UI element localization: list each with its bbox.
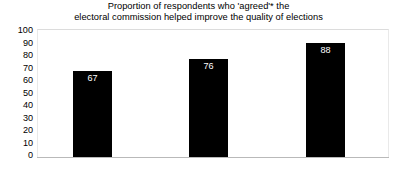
y-tick-label: 100	[0, 26, 33, 35]
bar-value-label: 67	[73, 74, 112, 84]
bar-chart-figure: Proportion of respondents who 'agreed'* …	[0, 0, 397, 175]
category-label-kenya: Kenya	[163, 145, 253, 155]
y-tick-label: 10	[0, 139, 33, 148]
y-tick-label: 40	[0, 101, 33, 110]
category-label-uganda: Uganda	[47, 145, 137, 155]
category-label-ghana: Ghana	[280, 145, 370, 155]
bar-value-label: 88	[306, 46, 345, 56]
bar-column: 76	[163, 28, 253, 157]
y-tick-label: 90	[0, 39, 33, 48]
bar-column: 67	[47, 28, 137, 157]
bar-value-label: 76	[189, 62, 228, 72]
y-tick-label: 80	[0, 51, 33, 60]
y-tick-label: 0	[0, 151, 33, 160]
y-axis: 100 90 80 70 60 50 40 30 20 10 0	[0, 0, 33, 175]
bar-kenya[interactable]: 76	[189, 59, 228, 157]
y-tick-label: 50	[0, 89, 33, 98]
bar-group-kenya: 76 Kenya	[163, 0, 253, 157]
bar-group-uganda: 67 Uganda	[47, 0, 137, 157]
bar-column: 88	[280, 28, 370, 157]
y-tick-label: 30	[0, 114, 33, 123]
bar-ghana[interactable]: 88	[306, 43, 345, 157]
y-tick-label: 60	[0, 76, 33, 85]
y-tick-label: 70	[0, 64, 33, 73]
bar-group-ghana: 88 Ghana	[280, 0, 370, 157]
y-tick-label: 20	[0, 126, 33, 135]
x-axis-baseline	[37, 157, 389, 158]
